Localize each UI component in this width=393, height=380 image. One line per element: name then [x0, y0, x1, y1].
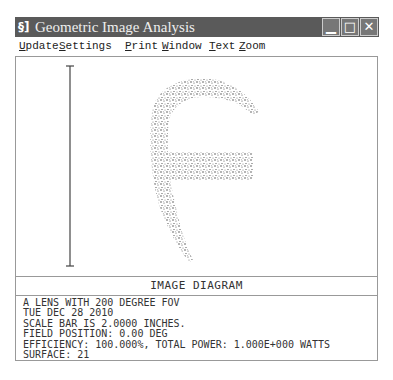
menu-zoom[interactable]: Zoom — [239, 40, 265, 52]
menu-text[interactable]: Text — [209, 40, 235, 52]
menu-window[interactable]: Window — [162, 40, 202, 52]
menu-settings[interactable]: Settings — [59, 40, 112, 52]
spot-f-shape — [150, 78, 259, 262]
app-window: §] Geometric Image Analysis ▁ □ ✕ Update… — [15, 17, 379, 362]
menu-print[interactable]: Print — [125, 40, 158, 52]
menu-update[interactable]: Update — [19, 40, 59, 52]
menu-bar: Update Settings Print Window Text Zoom — [15, 37, 379, 55]
maximize-button[interactable]: □ — [341, 18, 359, 36]
plot-caption: IMAGE DIAGRAM — [15, 276, 378, 296]
minimize-button[interactable]: ▁ — [322, 18, 340, 36]
window-title: Geometric Image Analysis — [35, 18, 195, 36]
app-icon[interactable]: §] — [18, 20, 32, 34]
scale-bar — [66, 66, 74, 266]
close-button[interactable]: ✕ — [360, 18, 378, 36]
image-diagram-plot — [15, 56, 378, 277]
title-bar[interactable]: §] Geometric Image Analysis ▁ □ ✕ — [15, 17, 379, 37]
info-panel: A LENS WITH 200 DEGREE FOV TUE DEC 28 20… — [15, 295, 378, 361]
spot-diagram — [16, 57, 377, 276]
info-line-surface: SURFACE: 21 — [23, 350, 377, 360]
